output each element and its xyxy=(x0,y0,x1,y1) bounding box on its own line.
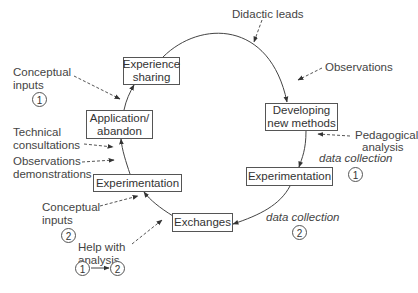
node-label: abandon xyxy=(97,125,142,138)
step-number-circle-1: 1 xyxy=(348,167,363,182)
node-experimentation-left: Experimentation xyxy=(93,174,182,192)
step-number-circle-2: 2 xyxy=(61,228,76,243)
node-experimentation-right: Experimentation xyxy=(246,167,333,186)
label-observations: Observations xyxy=(325,61,393,74)
label-technical-consultations: Technical consultations xyxy=(13,126,80,152)
step-number-circle-2: 2 xyxy=(110,261,125,276)
node-application-abandon: Application/ abandon xyxy=(86,110,153,139)
node-label: Developing xyxy=(273,104,331,117)
label-data-collection-2: data collection xyxy=(266,211,340,224)
node-label: Experimentation xyxy=(248,170,331,183)
label-didactic-leads: Didactic leads xyxy=(232,8,304,21)
label-conceptual-inputs-1: Conceptual inputs xyxy=(13,66,71,92)
label-line: Conceptual xyxy=(42,201,100,214)
label-line: Help with xyxy=(78,241,125,254)
label-line: inputs xyxy=(13,79,71,92)
label-line: demonstrations xyxy=(13,168,92,181)
step-number-circle-2: 2 xyxy=(292,225,307,240)
label-conceptual-inputs-2: Conceptual inputs xyxy=(42,201,100,227)
step-number-circle-1: 1 xyxy=(75,261,90,276)
label-observations-demonstrations: Observations demonstrations xyxy=(13,155,92,181)
label-line: Conceptual xyxy=(13,66,71,79)
node-experience-sharing: Experience sharing xyxy=(123,57,180,85)
node-exchanges: Exchanges xyxy=(172,213,233,232)
label-line: consultations xyxy=(13,139,80,152)
label-line: Observations xyxy=(13,155,92,168)
label-line: inputs xyxy=(42,214,100,227)
step-number-circle-1: 1 xyxy=(32,92,47,107)
node-label: Experimentation xyxy=(96,177,179,190)
label-data-collection-1: data collection xyxy=(319,152,393,165)
label-line: Technical xyxy=(13,126,80,139)
node-label: Application/ xyxy=(90,112,149,125)
node-label: Experience xyxy=(123,58,181,71)
node-label: Exchanges xyxy=(174,216,231,229)
node-developing-new-methods: Developing new methods xyxy=(265,103,338,131)
node-label: new methods xyxy=(267,117,335,130)
node-label: sharing xyxy=(133,71,171,84)
